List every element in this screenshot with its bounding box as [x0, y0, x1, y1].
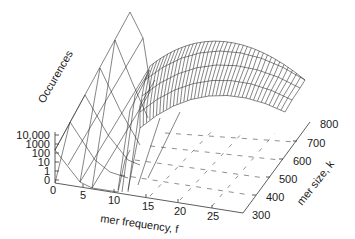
main-surface [128, 41, 305, 190]
x-tick-10: 10 [108, 194, 120, 206]
y-tick-800: 800 [320, 118, 338, 130]
y-tick-500: 500 [279, 173, 297, 185]
x-tick-20: 20 [174, 205, 186, 217]
surface-plot: 10,000 1000 100 10 1 0 0 5 10 15 20 25 3… [0, 0, 355, 239]
z-axis-title: Occurences [35, 48, 75, 105]
y-tick-600: 600 [293, 155, 311, 167]
x-tick-5: 5 [80, 189, 86, 201]
y-tick-300: 300 [252, 209, 270, 221]
x-tick-25: 25 [207, 210, 219, 222]
y-tick-400: 400 [266, 191, 284, 203]
y-tick-700: 700 [307, 137, 325, 149]
x-tick-0: 0 [50, 184, 56, 196]
x-tick-15: 15 [142, 200, 154, 212]
x-axis-title: mer frequency, f [100, 212, 180, 235]
low-frequency-surface [55, 12, 150, 192]
